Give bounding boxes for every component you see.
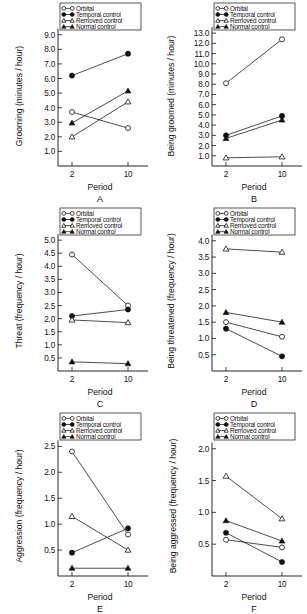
legend-D: OrbitalTemporal controlRemoved controlNo… [214, 208, 295, 235]
chart-panel-B: 1.02.03.04.05.06.07.08.09.010.011.012.01… [154, 0, 307, 204]
y-tick-label-D-1: 1.0 [198, 334, 209, 343]
legend-label-B-3: Normal control [230, 23, 269, 30]
y-tick-label-C-6: 3.5 [44, 275, 55, 284]
y-tick-label-E-3: 2.0 [44, 468, 55, 477]
series-line-D-2 [226, 249, 282, 252]
y-tick-label-C-8: 4.5 [44, 249, 55, 258]
data-point-F-0-0 [224, 537, 229, 542]
y-tick-label-B-7: 8.0 [198, 80, 209, 89]
y-tick-label-B-1: 2.0 [198, 142, 209, 151]
y-axis-title-E: Aggression (frequency / hour) [14, 449, 24, 562]
legend-marker-A-1-right [70, 13, 74, 17]
data-point-E-0-1 [126, 532, 131, 537]
data-point-E-2-1 [125, 547, 131, 552]
legend-marker-A-1-left [62, 13, 66, 17]
y-tick-label-B-0: 1.0 [198, 152, 209, 161]
series-line-B-2 [226, 157, 282, 158]
axis-lines-B [212, 27, 302, 166]
y-axis-title-A: Grooming (minutes / hour) [14, 46, 24, 146]
legend-marker-B-0-left [216, 6, 220, 10]
series-line-B-3 [226, 120, 282, 138]
y-tick-label-D-7: 4.0 [198, 237, 209, 246]
data-point-C-1-1 [125, 307, 130, 312]
legend-A: OrbitalTemporal controlRemoved controlNo… [60, 3, 141, 30]
chart-svg-B: 1.02.03.04.05.06.07.08.09.010.011.012.01… [154, 0, 307, 204]
data-point-D-0-1 [280, 334, 285, 339]
x-axis-title-E: Period [88, 592, 113, 602]
y-tick-label-D-5: 3.0 [198, 269, 209, 278]
y-tick-label-D-2: 1.5 [198, 318, 209, 327]
x-axis-title-B: Period [242, 182, 267, 192]
data-point-D-1-0 [223, 326, 228, 331]
axis-lines-A [58, 29, 148, 166]
legend-C: OrbitalTemporal controlRemoved controlNo… [60, 208, 141, 235]
data-point-E-3-1 [125, 565, 131, 570]
y-tick-label-C-1: 1.0 [44, 341, 55, 350]
chart-svg-A: 1.02.03.04.05.06.07.08.09.0210PeriodAGro… [0, 0, 153, 204]
legend-marker-D-0-left [216, 212, 220, 216]
legend-marker-F-1-right [224, 423, 228, 427]
x-tick-label-F-1: 10 [278, 580, 287, 589]
legend-label-E-3: Normal control [76, 433, 115, 440]
panel-letter-B: B [251, 194, 257, 204]
legend-marker-F-0-right [224, 417, 228, 421]
legend-marker-F-0-left [216, 417, 220, 421]
x-axis-title-C: Period [88, 387, 113, 397]
y-tick-label-C-2: 1.5 [44, 328, 55, 337]
legend-label-A-3: Normal control [76, 23, 115, 30]
data-point-A-3-1 [125, 88, 131, 93]
data-point-F-2-1 [279, 516, 285, 521]
series-line-C-0 [72, 255, 128, 306]
y-tick-label-F-2: 1.5 [198, 477, 209, 486]
y-tick-label-B-10: 11.0 [194, 50, 209, 59]
chart-svg-D: 0.51.01.52.02.53.03.54.0210PeriodDBeing … [154, 205, 307, 409]
y-tick-label-B-11: 12.0 [194, 39, 210, 48]
data-point-F-2-0 [223, 473, 229, 478]
y-tick-label-A-1: 2.0 [44, 133, 55, 142]
series-line-D-0 [226, 322, 282, 337]
legend-label-C-3: Normal control [76, 228, 115, 235]
y-tick-label-B-8: 9.0 [198, 70, 209, 79]
series-line-F-3 [226, 521, 282, 541]
data-point-A-1-0 [69, 73, 74, 78]
data-point-D-0-0 [224, 320, 229, 325]
legend-marker-C-1-left [62, 218, 66, 222]
legend-marker-C-0-right [70, 212, 74, 216]
data-point-B-2-1 [279, 154, 285, 159]
series-line-C-2 [72, 320, 128, 323]
data-point-E-2-0 [69, 513, 75, 518]
series-line-D-1 [226, 329, 282, 357]
y-tick-label-B-5: 6.0 [198, 101, 209, 110]
x-axis-title-F: Period [242, 592, 267, 602]
y-tick-label-C-9: 5.0 [44, 236, 55, 245]
y-tick-label-C-0: 0.5 [44, 354, 55, 363]
y-tick-label-E-4: 2.5 [44, 442, 55, 451]
legend-marker-B-0-right [224, 6, 228, 10]
panel-letter-A: A [97, 194, 103, 204]
data-point-E-1-0 [69, 550, 74, 555]
x-axis-title-A: Period [88, 182, 113, 192]
y-tick-label-A-7: 8.0 [44, 45, 55, 54]
x-tick-label-B-1: 10 [278, 170, 287, 179]
y-tick-label-B-3: 4.0 [198, 121, 209, 130]
data-point-A-1-1 [125, 51, 130, 56]
axis-lines-D [212, 235, 302, 371]
panel-letter-C: C [97, 399, 104, 409]
y-tick-label-B-4: 5.0 [198, 111, 209, 120]
legend-marker-B-1-right [224, 13, 228, 17]
y-tick-label-E-1: 1.0 [44, 520, 55, 529]
series-line-A-1 [72, 54, 128, 76]
data-point-F-1-0 [223, 530, 228, 535]
chart-svg-F: 0.51.01.52.0210PeriodFBeing aggressed (f… [154, 410, 307, 614]
data-point-F-3-0 [223, 518, 229, 523]
data-point-A-3-0 [69, 120, 75, 125]
y-tick-label-D-6: 3.5 [198, 253, 209, 262]
y-tick-label-A-5: 6.0 [44, 75, 55, 84]
y-tick-label-B-2: 3.0 [198, 131, 209, 140]
y-tick-label-A-4: 5.0 [44, 89, 55, 98]
y-tick-label-C-7: 4.0 [44, 262, 55, 271]
series-line-B-0 [226, 39, 282, 83]
chart-panel-E: 0.51.01.52.02.5210PeriodEAggression (fre… [0, 410, 153, 614]
y-axis-title-D: Being threatened (frequency / hour) [166, 233, 176, 369]
